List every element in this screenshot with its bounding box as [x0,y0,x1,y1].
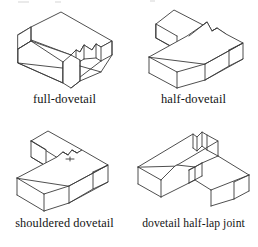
shouldered-dovetail-drawing [0,123,129,219]
caption-half-dovetail: half-dovetail [129,92,258,107]
half-dovetail-drawing [129,0,258,96]
dovetail-half-lap-drawing [129,123,258,219]
full-dovetail-drawing [0,0,129,96]
figure-panel-dovetail-half-lap: dovetail half-lap joint [129,123,258,246]
caption-dovetail-half-lap: dovetail half-lap joint [129,216,258,231]
figure-plate: full-dovetail [0,0,258,247]
caption-shouldered-dovetail: shouldered dovetail [0,216,129,231]
caption-full-dovetail: full-dovetail [0,92,129,107]
figure-panel-full-dovetail: full-dovetail [0,0,129,123]
figure-panel-half-dovetail: half-dovetail [129,0,258,123]
figure-panel-shouldered-dovetail: shouldered dovetail [0,123,129,246]
